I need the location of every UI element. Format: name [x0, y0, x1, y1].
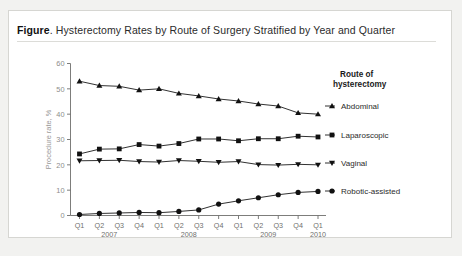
title-divider: [17, 41, 436, 42]
screenshot-root: Figure. Hysterectomy Rates by Route of S…: [0, 0, 462, 256]
figure-label: Figure: [17, 24, 50, 36]
figure-title: Figure. Hysterectomy Rates by Route of S…: [17, 24, 437, 37]
figure-title-text: . Hysterectomy Rates by Route of Surgery…: [50, 24, 395, 36]
figure-card: [8, 10, 452, 238]
